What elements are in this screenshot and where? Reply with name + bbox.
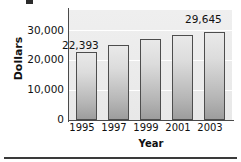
plot-area <box>68 10 232 120</box>
y-tick-label-10000: 10,000 <box>18 83 64 95</box>
y-axis-tick-labels: 30,000 20,000 10,000 0 <box>18 0 64 130</box>
bar-2003 <box>204 32 225 120</box>
y-tick-label-0: 0 <box>18 113 64 125</box>
x-tick-label-2003: 2003 <box>194 122 226 133</box>
gridline-30000 <box>68 30 232 31</box>
x-tick-label-1999: 1999 <box>130 122 162 133</box>
y-tick-label-30000: 30,000 <box>18 24 64 36</box>
y-tick-label-20000: 20,000 <box>18 53 64 65</box>
bar-1995 <box>76 52 97 120</box>
footer-divider <box>4 157 237 159</box>
bar-1997 <box>108 45 129 120</box>
x-tick-label-1995: 1995 <box>66 122 98 133</box>
x-tick-label-2001: 2001 <box>162 122 194 133</box>
bar-chart-figure: Dollars 30,000 20,000 10,000 0 22,393 29… <box>0 0 241 162</box>
bar-value-label-2003: 29,645 <box>185 13 222 25</box>
bar-value-label-1995: 22,393 <box>62 39 99 51</box>
x-tick-label-1997: 1997 <box>98 122 130 133</box>
bar-1999 <box>140 39 161 120</box>
bar-2001 <box>172 35 193 120</box>
x-axis-title: Year <box>68 138 234 149</box>
y-axis-line <box>68 8 69 122</box>
x-axis-line <box>68 120 234 121</box>
